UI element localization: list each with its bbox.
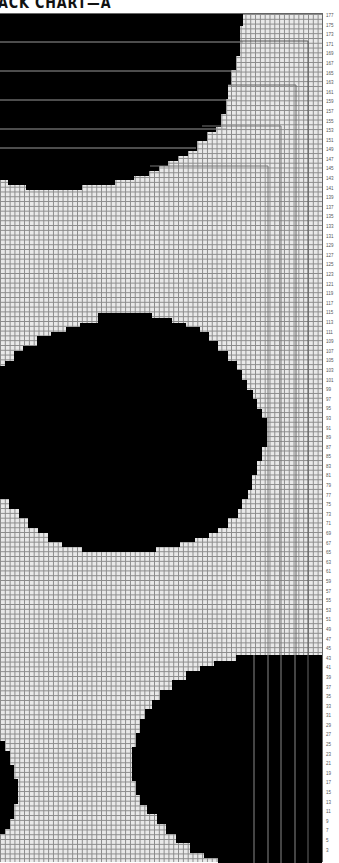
row-label: 45 [326, 646, 331, 651]
row-label: 97 [326, 397, 331, 402]
row-label: 89 [326, 435, 331, 440]
row-label: 65 [326, 550, 331, 555]
top-circle-motif [0, 14, 243, 190]
row-label: 113 [326, 320, 333, 325]
row-label: 25 [326, 742, 331, 747]
row-label: 75 [326, 502, 331, 507]
row-label: 79 [326, 483, 331, 488]
row-label: 39 [326, 675, 331, 680]
row-label: 169 [326, 51, 334, 56]
row-label: 133 [326, 224, 334, 229]
row-label: 139 [326, 195, 334, 200]
row-label: 117 [326, 301, 333, 306]
row-label: 77 [326, 493, 331, 498]
row-label: 37 [326, 685, 331, 690]
bottom-right-circle-motif [132, 655, 322, 863]
row-label: 21 [326, 761, 331, 766]
row-label: 155 [326, 119, 334, 124]
row-label: 57 [326, 589, 331, 594]
row-label: 63 [326, 560, 331, 565]
row-label: 153 [326, 128, 334, 133]
row-label: 109 [326, 339, 334, 344]
row-label: 13 [326, 800, 331, 805]
row-label: 161 [326, 90, 334, 95]
row-label: 99 [326, 387, 331, 392]
row-label: 11 [326, 809, 331, 814]
row-label: 83 [326, 464, 331, 469]
row-label: 55 [326, 598, 331, 603]
row-label: 87 [326, 445, 331, 450]
row-label: 27 [326, 732, 331, 737]
row-label: 95 [326, 406, 331, 411]
row-label: 125 [326, 262, 334, 267]
row-label: 17 [326, 780, 331, 785]
row-label: 177 [326, 13, 334, 18]
chart-motifs [0, 14, 323, 863]
row-label: 67 [326, 541, 331, 546]
row-label: 159 [326, 99, 334, 104]
row-label: 129 [326, 243, 334, 248]
row-label: 175 [326, 23, 334, 28]
row-label: 149 [326, 147, 334, 152]
row-label: 135 [326, 214, 334, 219]
row-label: 157 [326, 109, 334, 114]
row-label: 71 [326, 521, 331, 526]
row-label: 119 [326, 291, 333, 296]
row-label: 145 [326, 166, 334, 171]
row-label: 91 [326, 426, 331, 431]
row-label: 33 [326, 704, 331, 709]
row-label: 19 [326, 771, 331, 776]
row-label: 23 [326, 752, 331, 757]
row-label: 15 [326, 790, 331, 795]
row-label: 51 [326, 617, 331, 622]
chart-title: ACK CHART—A [0, 0, 111, 12]
row-label: 103 [326, 368, 334, 373]
row-label: 41 [326, 665, 331, 670]
row-label: 171 [326, 42, 334, 47]
row-label: 3 [326, 848, 329, 853]
middle-circle-motif [0, 313, 267, 552]
row-number-labels: 1771751731711691671651631611591571551531… [326, 13, 339, 862]
row-label: 115 [326, 310, 333, 315]
row-label: 35 [326, 694, 331, 699]
row-label: 137 [326, 205, 334, 210]
row-label: 167 [326, 61, 334, 66]
row-label: 47 [326, 637, 331, 642]
row-label: 121 [326, 282, 334, 287]
row-label: 9 [326, 819, 329, 824]
row-label: 147 [326, 157, 334, 162]
row-label: 49 [326, 627, 331, 632]
row-label: 85 [326, 454, 331, 459]
row-label: 141 [326, 186, 334, 191]
knitting-chart-grid [0, 13, 323, 862]
row-label: 81 [326, 473, 331, 478]
row-label: 111 [326, 330, 333, 335]
row-label: 53 [326, 608, 331, 613]
bottom-left-partial-motif [0, 741, 18, 834]
row-label: 131 [326, 234, 334, 239]
row-label: 7 [326, 828, 329, 833]
row-label: 59 [326, 579, 331, 584]
row-label: 5 [326, 838, 329, 843]
row-label: 69 [326, 531, 331, 536]
row-label: 93 [326, 416, 331, 421]
row-label: 29 [326, 723, 331, 728]
row-label: 43 [326, 656, 331, 661]
row-label: 163 [326, 80, 334, 85]
row-label: 31 [326, 713, 331, 718]
row-label: 107 [326, 349, 334, 354]
row-label: 165 [326, 71, 334, 76]
row-label: 151 [326, 138, 334, 143]
row-label: 123 [326, 272, 334, 277]
row-label: 143 [326, 176, 334, 181]
row-label: 101 [326, 378, 334, 383]
row-label: 105 [326, 358, 334, 363]
row-label: 127 [326, 253, 334, 258]
row-label: 173 [326, 32, 334, 37]
row-label: 73 [326, 512, 331, 517]
row-label: 61 [326, 569, 331, 574]
